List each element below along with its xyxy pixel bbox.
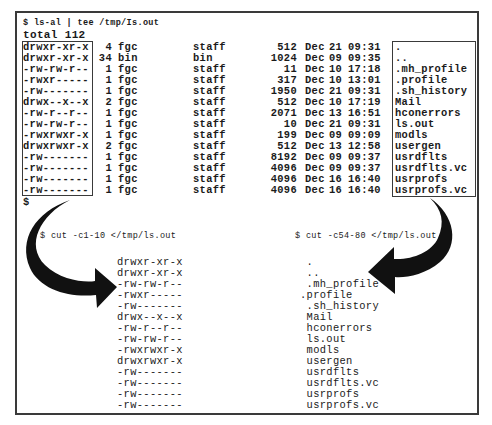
arrows-layer [0, 0, 492, 425]
right-curved-arrow [368, 198, 452, 294]
left-curved-arrow [26, 200, 117, 308]
